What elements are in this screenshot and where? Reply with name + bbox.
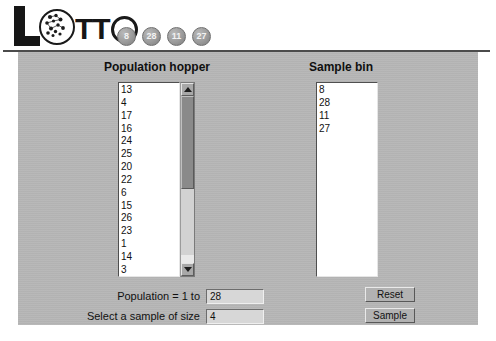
list-item[interactable]: 26 [121, 212, 179, 225]
scrollbar-thumb[interactable] [181, 96, 194, 189]
arrow-up-icon [184, 87, 192, 92]
list-item[interactable]: 20 [121, 161, 179, 174]
hopper-ball-circle-icon [39, 9, 75, 45]
population-input[interactable]: 28 [206, 289, 264, 304]
list-item[interactable]: 22 [121, 174, 179, 187]
drawn-ball: 11 [167, 27, 186, 46]
list-item[interactable]: 25 [121, 148, 179, 161]
sample-size-row: Select a sample of size 4 [78, 308, 264, 324]
population-row: Population = 1 to 28 [78, 288, 264, 304]
arrow-down-icon [184, 267, 192, 272]
sample-size-label: Select a sample of size [78, 310, 206, 322]
list-item[interactable]: 3 [121, 264, 179, 277]
list-item[interactable]: 1 [121, 238, 179, 251]
list-item[interactable]: 15 [121, 200, 179, 213]
main-panel: Population hopper Sample bin 13 4 17 16 … [18, 52, 478, 325]
population-hopper-items: 13 4 17 16 24 25 20 22 6 15 26 23 1 14 3 [119, 83, 179, 277]
sample-bin-listbox[interactable]: 8 28 11 27 [316, 82, 378, 277]
drawn-balls-row: 8 28 11 27 [117, 27, 211, 46]
list-item[interactable]: 27 [319, 123, 377, 136]
list-item[interactable]: 6 [121, 187, 179, 200]
sample-size-input[interactable]: 4 [206, 309, 264, 324]
population-label: Population = 1 to [78, 290, 206, 302]
drawn-ball: 28 [142, 27, 161, 46]
reset-button[interactable]: Reset [365, 287, 415, 302]
list-item[interactable]: 8 [319, 84, 377, 97]
sample-button[interactable]: Sample [365, 308, 415, 323]
scroll-down-button[interactable] [181, 263, 194, 276]
drawn-ball: 27 [192, 27, 211, 46]
list-item[interactable]: 14 [121, 251, 179, 264]
list-item[interactable]: 23 [121, 225, 179, 238]
scroll-up-button[interactable] [181, 83, 194, 96]
sample-bin-items: 8 28 11 27 [317, 83, 377, 135]
lotto-applet: TT 8 28 11 27 Population hopper Sample b… [0, 0, 496, 341]
sample-bin-title: Sample bin [309, 60, 373, 74]
list-item[interactable]: 17 [121, 110, 179, 123]
list-item[interactable]: 13 [121, 84, 179, 97]
drawn-ball: 8 [117, 27, 136, 46]
list-item[interactable]: 11 [319, 110, 377, 123]
population-hopper-listbox[interactable]: 13 4 17 16 24 25 20 22 6 15 26 23 1 14 3 [118, 82, 180, 277]
header-bar: TT 8 28 11 27 [0, 0, 496, 51]
list-item[interactable]: 4 [121, 97, 179, 110]
population-hopper-scrollbar[interactable] [180, 82, 195, 277]
population-hopper-title: Population hopper [104, 60, 210, 74]
list-item[interactable]: 24 [121, 135, 179, 148]
list-item[interactable]: 16 [121, 123, 179, 136]
logo-letters-tt: TT [75, 14, 110, 44]
list-item[interactable]: 28 [319, 97, 377, 110]
scrollbar-track[interactable] [181, 189, 194, 255]
logo-letter-l [14, 6, 40, 46]
logo-l-foot [14, 36, 40, 46]
